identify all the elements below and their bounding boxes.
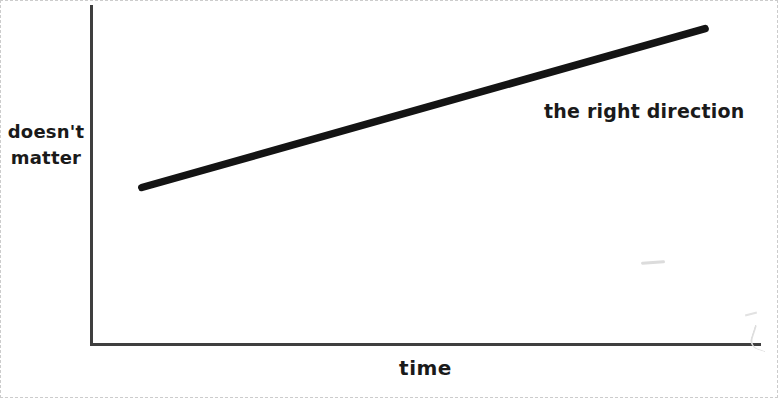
line-annotation: the right direction bbox=[544, 100, 744, 122]
x-axis-line bbox=[90, 343, 761, 346]
x-axis-label: time bbox=[90, 356, 761, 380]
chart-canvas: doesn't matter the right direction time bbox=[0, 0, 778, 398]
trend-line-svg bbox=[93, 5, 762, 343]
y-axis-label: doesn't matter bbox=[5, 119, 87, 171]
